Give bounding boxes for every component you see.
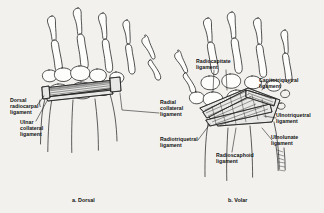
label-line: ligament	[10, 109, 32, 115]
caption-dorsal: a. Dorsal	[72, 197, 95, 203]
label-line: ligament	[276, 118, 298, 124]
wrist-ligaments-figure: Dorsal radiocarpal ligament Ulnar collat…	[0, 0, 324, 213]
label-line: ligament	[196, 64, 218, 70]
caption-volar: b. Volar	[228, 197, 248, 203]
label-line: ligament	[259, 83, 281, 89]
label-line: ligament	[160, 111, 182, 117]
label-line: ligament	[271, 140, 293, 146]
label-line: ligament	[160, 142, 182, 148]
label-line: ligament	[216, 158, 238, 164]
label-line: ligament	[20, 131, 42, 137]
